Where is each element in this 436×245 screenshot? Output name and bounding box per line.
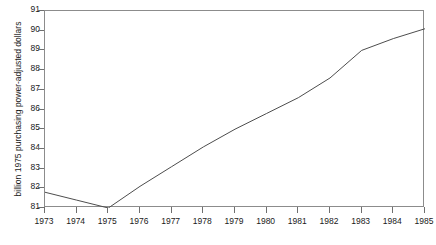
line-chart: billion 1975 purchasing power-adjusted d… <box>0 0 436 245</box>
x-axis-tick <box>361 207 362 213</box>
y-axis-tick-label: 82 <box>31 181 40 191</box>
x-axis-tick <box>234 207 235 213</box>
data-series-line <box>45 11 425 208</box>
x-axis-tick <box>44 207 45 213</box>
y-axis-tick-label: 88 <box>31 63 40 73</box>
x-axis-tick <box>266 207 267 213</box>
series-polyline <box>45 29 425 208</box>
plot-area <box>44 10 424 207</box>
x-axis-tick <box>329 207 330 213</box>
x-axis-tick <box>171 207 172 213</box>
y-axis-tick-label: 85 <box>31 122 40 132</box>
x-axis-tick <box>107 207 108 213</box>
y-axis-tick-label: 91 <box>31 4 40 14</box>
y-axis-tick-label: 83 <box>31 162 40 172</box>
y-axis-title: billion 1975 purchasing power-adjusted d… <box>13 0 23 219</box>
x-axis-tick <box>392 207 393 213</box>
y-axis-tick-label: 81 <box>31 201 40 211</box>
x-axis-tick <box>297 207 298 213</box>
y-axis-tick-label: 90 <box>31 24 40 34</box>
x-axis-tick-label: 1985 <box>404 216 436 226</box>
y-axis-tick-label: 86 <box>31 103 40 113</box>
x-axis-tick <box>424 207 425 213</box>
y-axis-tick-label: 89 <box>31 43 40 53</box>
y-axis-tick-label: 84 <box>31 142 40 152</box>
x-axis-tick <box>76 207 77 213</box>
x-axis-tick <box>139 207 140 213</box>
y-axis-tick-label: 87 <box>31 83 40 93</box>
x-axis-tick <box>202 207 203 213</box>
